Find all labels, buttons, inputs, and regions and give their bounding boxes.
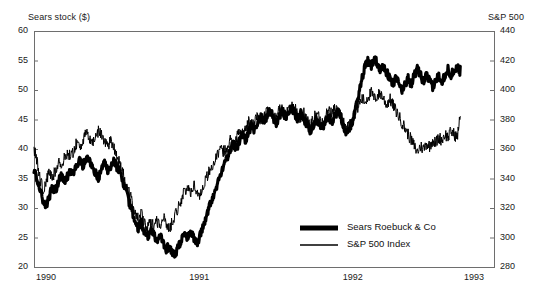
chart-figure: Sears stock ($) S&P 500 6055504540353025…: [0, 0, 533, 296]
y2-axis-tick-label: 420: [500, 56, 526, 65]
legend-entry-label: S&P 500 Index: [347, 239, 410, 249]
y-axis-tick-label: 35: [6, 174, 28, 183]
legend-entry-label: Sears Roebuck & Co: [347, 222, 436, 232]
y2-axis-tick-label: 320: [500, 203, 526, 212]
plot-border: [35, 32, 495, 268]
y2-axis-tick-label: 300: [500, 233, 526, 242]
x-axis-tick-label: 1990: [36, 273, 70, 282]
y-axis-tick-label: 25: [6, 233, 28, 242]
y-axis-tick-label: 50: [6, 85, 28, 94]
y2-axis-tick-label: 400: [500, 85, 526, 94]
plot-frame: [35, 32, 495, 268]
x-axis-tick-label: 1991: [189, 273, 223, 282]
x-axis-tick-label: 1992: [343, 273, 377, 282]
y-axis-tick-label: 55: [6, 56, 28, 65]
axis-ticks: [34, 61, 494, 238]
y-axis-tick-label: 40: [6, 144, 28, 153]
y2-axis-tick-label: 440: [500, 26, 526, 35]
x-axis-tick-label: 1993: [464, 273, 498, 282]
y2-axis-tick-label: 360: [500, 144, 526, 153]
legend-swatches: [300, 228, 338, 245]
y2-axis-tick-label: 340: [500, 174, 526, 183]
y2-axis-tick-label: 380: [500, 115, 526, 124]
y2-axis-tick-label: 280: [500, 262, 526, 271]
series-line-sp500: [34, 87, 460, 232]
y-axis-tick-label: 20: [6, 262, 28, 271]
y-axis-tick-label: 30: [6, 203, 28, 212]
plot-area: [0, 0, 533, 296]
y-axis-tick-label: 60: [6, 26, 28, 35]
y-axis-tick-label: 45: [6, 115, 28, 124]
